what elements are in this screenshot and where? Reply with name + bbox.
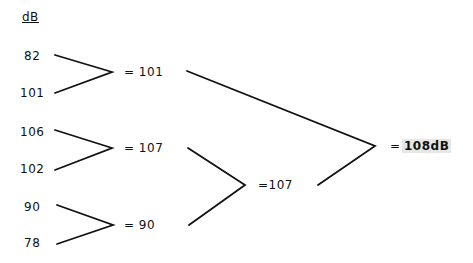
input-value: 82	[24, 49, 40, 63]
input-value: 101	[20, 86, 44, 100]
result-eq: =	[390, 139, 401, 153]
connector-lines	[0, 0, 473, 263]
input-value: 78	[24, 236, 40, 250]
decibel-addition-diagram: dB 82 101 106 102 90 78 = 101 = 107 = 90…	[0, 0, 473, 263]
sum-107-combined: =107	[258, 178, 293, 192]
input-value: 106	[20, 125, 44, 139]
final-result: 108dB	[402, 139, 451, 153]
input-value: 102	[20, 162, 44, 176]
input-value: 90	[24, 200, 40, 214]
sum-101: = 101	[124, 65, 163, 79]
unit-label: dB	[22, 10, 39, 24]
sum-90: = 90	[124, 218, 155, 232]
sum-107: = 107	[124, 141, 163, 155]
